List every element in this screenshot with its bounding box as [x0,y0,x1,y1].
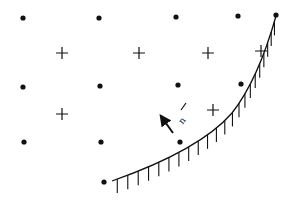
dot-icon [235,13,240,18]
grid-dots [20,12,278,184]
dot-icon [177,139,182,144]
diagram-canvas: n [0,0,293,205]
cross-icon [56,108,68,120]
dot-icon [101,179,106,184]
curved-boundary [112,16,276,181]
dot-icon [96,15,101,20]
normal-arrow-icon [163,119,173,133]
cross-icon [207,104,219,116]
dot-icon [173,14,178,19]
dot-icon [97,83,102,88]
boundary-hatching [117,21,274,193]
dot-icon [20,15,25,20]
dot-icon [21,139,26,144]
normal-label: n [176,115,188,126]
cross-icon [202,47,214,59]
cross-icon [133,47,145,59]
normal-overbar [181,103,186,110]
dot-icon [20,84,25,89]
dot-icon [238,81,243,86]
grid-boundary-diagram: n [0,0,293,205]
cross-icon [56,47,68,59]
dot-icon [98,139,103,144]
dot-icon [175,82,180,87]
normal-vector: n [163,103,188,133]
